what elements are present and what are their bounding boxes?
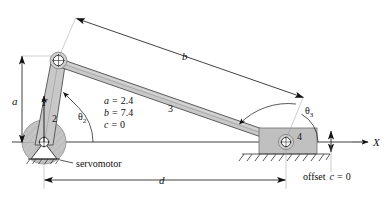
- theta2-arc-leader: [64, 93, 79, 108]
- slider-link-label-4: 4: [297, 131, 302, 142]
- theta3-subscript: 3: [310, 111, 314, 119]
- parameter-c-value: 0: [120, 119, 125, 130]
- servomotor-leader-line: [60, 160, 73, 163]
- parameter-b: b=7.4: [104, 107, 133, 118]
- parameter-c-name: c: [104, 119, 109, 130]
- offset-variable: c: [330, 171, 335, 182]
- parameter-c-equals: =: [111, 119, 117, 130]
- parameter-a-name: a: [104, 95, 109, 106]
- slider-ground-hatching: [239, 154, 330, 161]
- parameter-b-name: b: [104, 107, 109, 118]
- dimension-b-label: b: [182, 50, 188, 62]
- parameter-c: c=0: [104, 119, 125, 130]
- parameter-b-value: 7.4: [121, 107, 134, 118]
- dimension-d-label: d: [159, 174, 165, 186]
- servomotor-label: servomotor: [76, 158, 122, 169]
- theta2-subscript: 2: [83, 117, 87, 125]
- crank-coupler-pin-joint: [50, 52, 67, 69]
- coupler-slider-pin-joint: [278, 134, 293, 149]
- offset-equals: =: [337, 171, 343, 182]
- theta3-arc-long: [240, 104, 297, 124]
- crank-link-label-2: 2: [52, 113, 57, 124]
- parameter-a-value: 2.4: [121, 95, 134, 106]
- parameter-b-equals: =: [112, 107, 118, 118]
- coupler-link-label-3: 3: [168, 103, 173, 114]
- parameter-a-equals: =: [112, 95, 118, 106]
- x-axis-label: X: [372, 136, 381, 148]
- coupler-link-3: [57, 58, 289, 147]
- slider-crank-diagram: a b d Y X 2 3 4 θ2 θ3 a=2.4 b=7.4 c=0 se…: [0, 0, 389, 200]
- offset-prefix: offset: [303, 171, 326, 182]
- theta2-label: θ2: [78, 111, 87, 125]
- dimension-a-label: a: [12, 95, 18, 107]
- theta3-label: θ3: [305, 105, 314, 119]
- offset-label: offsetc=0: [303, 171, 351, 182]
- diagram-canvas: a b d Y X 2 3 4 θ2 θ3 a=2.4 b=7.4 c=0 se…: [0, 0, 389, 200]
- parameter-a: a=2.4: [104, 95, 133, 106]
- offset-value: 0: [346, 171, 351, 182]
